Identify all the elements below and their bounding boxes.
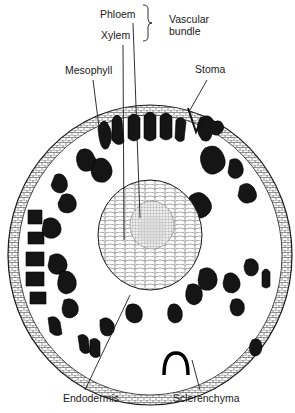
label-mesophyll: Mesophyll (65, 64, 112, 76)
vascular-bundle-brace (143, 5, 152, 41)
cross-section-drawing (0, 0, 295, 413)
label-sclerenchyma: Sclerenchyma (173, 392, 240, 404)
label-endodermis: Endodermis (63, 392, 119, 404)
label-stoma: Stoma (195, 63, 225, 75)
label-phloem: Phloem (100, 8, 136, 20)
label-vascular-line1: Vascular (169, 13, 209, 25)
needle-cross-section-figure: Phloem Xylem Vascular bundle Mesophyll S… (0, 0, 295, 413)
vascular-bundle (130, 201, 174, 249)
label-xylem: Xylem (101, 29, 130, 41)
label-vascular-line2: bundle (169, 25, 201, 37)
